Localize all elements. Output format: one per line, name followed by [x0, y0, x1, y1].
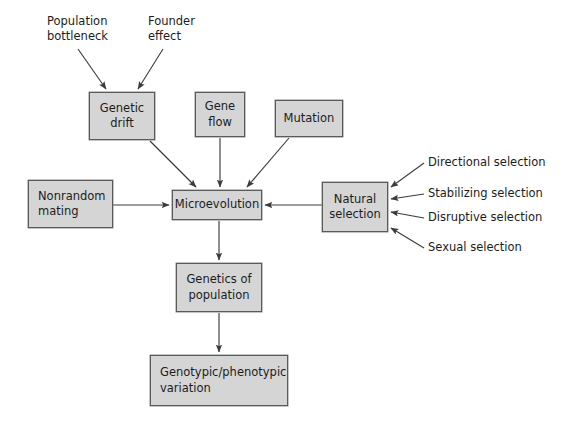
microevolution-diagram: Genetic drift Gene flow Mutation Nonrand…: [0, 0, 564, 430]
label-founder-effect: Founder effect: [148, 14, 195, 45]
node-genetic-drift[interactable]: Genetic drift: [89, 92, 155, 140]
node-mutation[interactable]: Mutation: [275, 100, 343, 137]
node-nonrandom-mating[interactable]: Nonrandom mating: [28, 180, 113, 228]
label-stabilizing-selection: Stabilizing selection: [428, 186, 543, 201]
node-genotypic-phenotypic-variation[interactable]: Genotypic/phenotypic variation: [150, 355, 288, 406]
edge-mutation-to-micro: [247, 138, 289, 187]
edge-directional-to-natural: [391, 163, 424, 187]
node-microevolution[interactable]: Microevolution: [172, 190, 262, 220]
edge-drift-to-micro: [150, 141, 196, 187]
node-genetics-of-population[interactable]: Genetics of population: [176, 263, 262, 312]
label-sexual-selection: Sexual selection: [428, 240, 522, 255]
label-population-bottleneck: Population bottleneck: [47, 14, 108, 45]
edge-stabilizing-to-natural: [391, 194, 424, 199]
edge-bottleneck-to-drift: [78, 49, 106, 89]
edge-disruptive-to-natural: [391, 212, 424, 218]
label-disruptive-selection: Disruptive selection: [428, 210, 542, 225]
edge-founder-to-drift: [138, 49, 163, 89]
edge-sexual-to-natural: [391, 228, 424, 248]
node-natural-selection[interactable]: Natural selection: [322, 182, 388, 232]
node-gene-flow[interactable]: Gene flow: [195, 92, 245, 137]
label-directional-selection: Directional selection: [428, 155, 546, 170]
